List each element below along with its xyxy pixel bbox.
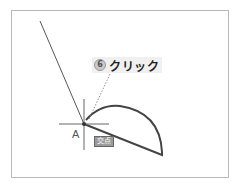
callout-action-label: クリック: [109, 57, 159, 74]
intersection-marker-icon: [82, 122, 86, 126]
point-a-label: A: [72, 128, 79, 140]
construction-line: [40, 21, 84, 124]
step-number-icon: 6: [94, 59, 106, 71]
snap-tooltip: 交点: [94, 136, 114, 147]
arc-shape: [84, 106, 162, 155]
leader-line: [89, 74, 110, 119]
instruction-callout: 6 クリック: [92, 57, 162, 73]
drawing-canvas[interactable]: [0, 0, 242, 191]
